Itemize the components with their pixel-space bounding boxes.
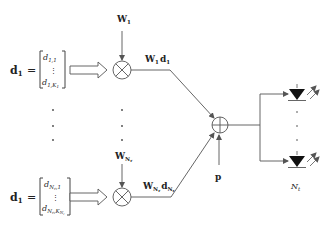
precoding-diagram: d1 = d1,1 ⋮ d1,K1 W1 W1d1 <box>0 0 335 226</box>
bottom-entry-last: dNr,KNr <box>42 204 65 216</box>
top-product-label: W1d1 <box>144 54 170 65</box>
bottom-product-label: WNrdNr <box>142 181 176 193</box>
top-branch: d1 = d1,1 ⋮ d1,K1 W1 W1d1 <box>10 14 214 118</box>
bottom-branch: d1 = dNr,1 ⋮ dNr,KNr WNr WNrdNr <box>10 133 214 216</box>
top-entry-last: d1,K1 <box>42 78 59 89</box>
led-top-icon <box>288 84 319 101</box>
bottom-entry-first: dNr,1 <box>44 180 61 191</box>
top-entry-dots: ⋮ <box>50 67 57 75</box>
split-bottom-line <box>260 125 288 161</box>
top-hollow-arrow <box>70 62 107 78</box>
bottom-entry-dots: ⋮ <box>52 194 59 202</box>
bottom-equals: = <box>27 191 36 204</box>
bottom-hollow-arrow <box>70 189 107 205</box>
top-equals: = <box>27 64 36 77</box>
top-weight-label: W1 <box>116 14 131 25</box>
led-ellipsis <box>296 111 298 141</box>
adder-icon <box>212 117 228 133</box>
top-right-bracket <box>62 51 65 88</box>
top-to-sum-line <box>131 70 214 118</box>
led-bottom-icon <box>288 151 319 168</box>
top-vector-label: d1 <box>10 64 23 78</box>
bottom-vector-label: d1 <box>10 191 23 205</box>
split-top-line <box>260 94 288 125</box>
bias-label: p <box>215 172 221 182</box>
vertical-ellipsis <box>52 109 123 141</box>
top-entry-first: d1,1 <box>43 53 57 63</box>
top-multiplier-icon <box>113 61 131 79</box>
led-count-label: Nt <box>290 182 301 192</box>
bottom-multiplier-icon <box>113 188 131 206</box>
bottom-weight-label: WNr <box>114 151 133 163</box>
